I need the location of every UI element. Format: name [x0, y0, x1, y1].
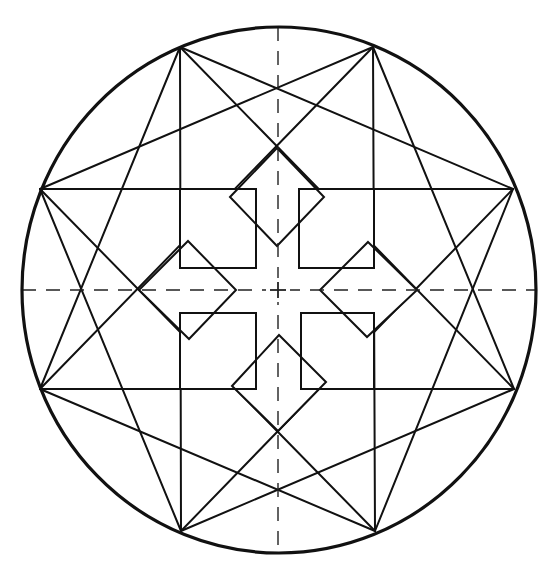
star-line-HB — [40, 47, 373, 189]
star-line-EG — [40, 389, 375, 531]
star-line-CE — [375, 189, 513, 531]
center-axes — [22, 27, 537, 553]
octagram-diagram — [0, 0, 553, 571]
star-line-AC — [180, 47, 513, 189]
star-line-DF — [181, 389, 514, 531]
star-line-BD — [373, 47, 514, 389]
star-line-FH — [40, 189, 181, 531]
star-line-GA — [40, 47, 180, 389]
